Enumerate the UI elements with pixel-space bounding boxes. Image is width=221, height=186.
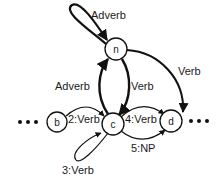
edge-n-c-verb <box>119 59 129 115</box>
label-n-self-adverb: Adverb <box>91 9 126 21</box>
node-b: b <box>47 112 67 132</box>
node-d-label: d <box>168 116 174 127</box>
label-n-c-verb: Verb <box>131 80 154 92</box>
node-b-label: b <box>54 117 60 128</box>
label-c-d-5np: 5:NP <box>131 142 155 154</box>
node-n-label: n <box>113 44 119 55</box>
node-c: c <box>102 113 124 135</box>
ellipsis-right <box>189 119 209 123</box>
node-d: d <box>160 110 182 132</box>
label-b-c-2verb: 2:Verb <box>68 113 100 125</box>
label-n-d-verb: Verb <box>178 65 201 77</box>
ellipsis-left <box>18 120 38 124</box>
graph-diagram: n b c d Adverb Adverb Verb Verb 2:Verb 3… <box>0 0 221 186</box>
label-c-n-adverb: Adverb <box>55 80 90 92</box>
node-c-label: c <box>111 119 116 130</box>
edge-c-d-5np <box>121 130 165 139</box>
edge-c-self-3verb <box>75 133 108 161</box>
edge-c-n-adverb <box>99 59 108 114</box>
label-c-d-4verb: 4:Verb <box>125 113 157 125</box>
label-c-self-3verb: 3:Verb <box>62 164 94 176</box>
node-n: n <box>105 38 127 60</box>
